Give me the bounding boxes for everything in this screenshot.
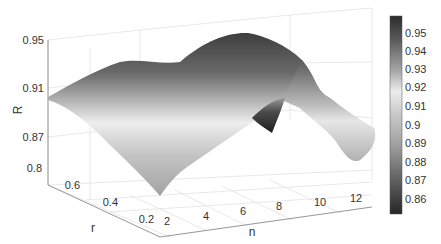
colorbar: 0.95 0.94 0.93 0.92 0.91 0.9 0.89 0.88 0…	[390, 16, 426, 214]
cbar-tick-0.87: 0.87	[405, 174, 426, 186]
x-tick-12: 12	[350, 192, 362, 204]
cbar-tick-0.92: 0.92	[405, 81, 426, 93]
z-tick-0.91: 0.91	[23, 82, 44, 94]
cbar-tick-0.86: 0.86	[405, 193, 426, 205]
x-tick-4: 4	[203, 210, 209, 222]
cbar-tick-0.95: 0.95	[405, 27, 426, 39]
cbar-tick-0.94: 0.94	[405, 45, 426, 57]
x-tick-6: 6	[240, 205, 246, 217]
y-tick-0.2: 0.2	[139, 213, 154, 225]
colorbar-gradient	[390, 16, 402, 214]
z-axis-label: R	[11, 105, 25, 114]
surface-plot: 0.95 0.91 0.87 R 0.8 0.6 0.4 0.2 r 2 4 6…	[0, 0, 441, 244]
cbar-tick-0.91: 0.91	[405, 100, 426, 112]
y-tick-0.8: 0.8	[27, 162, 42, 174]
z-axis-ticks: 0.95 0.91 0.87	[23, 34, 44, 143]
z-tick-0.95: 0.95	[23, 34, 44, 46]
y-tick-0.4: 0.4	[103, 196, 118, 208]
x-tick-10: 10	[314, 196, 326, 208]
surface	[48, 33, 375, 196]
cbar-tick-0.89: 0.89	[405, 137, 426, 149]
cbar-tick-0.93: 0.93	[405, 63, 426, 75]
x-axis-label: n	[249, 225, 256, 239]
y-axis-label: r	[91, 221, 95, 235]
cbar-tick-0.9: 0.9	[405, 119, 420, 131]
y-tick-0.6: 0.6	[65, 179, 80, 191]
z-tick-0.87: 0.87	[23, 131, 44, 143]
cbar-tick-0.88: 0.88	[405, 156, 426, 168]
x-tick-2: 2	[164, 215, 170, 227]
x-tick-8: 8	[276, 200, 282, 212]
